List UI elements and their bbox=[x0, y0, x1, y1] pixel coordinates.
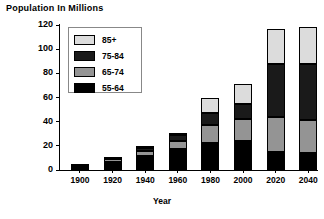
bar-segment bbox=[234, 119, 252, 141]
y-tick-mark bbox=[56, 49, 60, 50]
bar-segment bbox=[234, 141, 252, 170]
bar-stack bbox=[267, 29, 285, 170]
legend-label: 55-64 bbox=[102, 83, 124, 93]
chart-legend: 85+75-8465-7455-64 bbox=[68, 27, 142, 93]
y-axis-title: Population In Millions bbox=[6, 3, 103, 13]
bar-segment bbox=[104, 162, 122, 170]
y-tick-label: 40 bbox=[43, 116, 53, 126]
x-tick-mark bbox=[243, 170, 244, 173]
bar-segment bbox=[299, 120, 317, 153]
x-tick-label: 1920 bbox=[103, 175, 122, 185]
bar-stack bbox=[136, 146, 154, 170]
bar-segment bbox=[234, 104, 252, 120]
legend-swatch bbox=[74, 67, 95, 77]
x-tick-mark bbox=[210, 170, 211, 173]
legend-item: 75-84 bbox=[74, 48, 141, 63]
x-tick-label: 1980 bbox=[201, 175, 220, 185]
bar-segment bbox=[234, 84, 252, 103]
y-tick-label: 100 bbox=[38, 43, 53, 53]
bar-segment bbox=[201, 98, 219, 114]
x-tick-mark bbox=[145, 170, 146, 173]
x-tick-mark bbox=[79, 170, 80, 173]
y-tick-label: 60 bbox=[43, 92, 53, 102]
legend-item: 65-74 bbox=[74, 64, 141, 79]
bar-segment bbox=[267, 29, 285, 64]
y-tick-mark bbox=[56, 170, 60, 171]
x-tick-label: 1960 bbox=[168, 175, 187, 185]
bar-segment bbox=[201, 143, 219, 170]
bar-stack bbox=[104, 157, 122, 170]
x-tick-label: 1940 bbox=[136, 175, 155, 185]
bar-stack bbox=[234, 84, 252, 170]
y-tick-mark bbox=[56, 25, 60, 26]
x-tick-mark bbox=[308, 170, 309, 173]
legend-label: 65-74 bbox=[102, 67, 124, 77]
legend-swatch bbox=[74, 83, 95, 93]
x-tick-label: 2020 bbox=[266, 175, 285, 185]
x-tick-mark bbox=[112, 170, 113, 173]
bar-segment bbox=[201, 125, 219, 143]
x-tick-label: 2000 bbox=[234, 175, 253, 185]
bar-segment bbox=[169, 149, 187, 170]
y-tick-label: 20 bbox=[43, 140, 53, 150]
x-tick-label: 1900 bbox=[71, 175, 90, 185]
x-tick-mark bbox=[275, 170, 276, 173]
legend-item: 55-64 bbox=[74, 80, 141, 95]
legend-label: 75-84 bbox=[102, 51, 124, 61]
bar-segment bbox=[169, 141, 187, 149]
legend-swatch bbox=[74, 51, 95, 61]
bar-stack bbox=[201, 98, 219, 170]
y-tick-mark bbox=[56, 97, 60, 98]
bar-segment bbox=[136, 156, 154, 171]
y-tick-mark bbox=[56, 73, 60, 74]
x-axis-title: Year bbox=[0, 196, 324, 206]
x-axis-line bbox=[59, 170, 318, 171]
bar-segment bbox=[267, 64, 285, 117]
x-tick-label: 2040 bbox=[299, 175, 318, 185]
legend-item: 85+ bbox=[74, 32, 141, 47]
y-tick-label: 80 bbox=[43, 67, 53, 77]
bar-segment bbox=[299, 27, 317, 63]
y-tick-mark bbox=[56, 121, 60, 122]
y-tick-label: 0 bbox=[48, 164, 53, 174]
bar-segment bbox=[267, 117, 285, 152]
bar-segment bbox=[267, 152, 285, 170]
bar-stack bbox=[169, 133, 187, 170]
y-tick-label: 120 bbox=[38, 19, 53, 29]
legend-swatch bbox=[74, 35, 95, 45]
bar-segment bbox=[299, 64, 317, 121]
population-stacked-bar-chart: Population In Millions 02040608010012019… bbox=[0, 0, 324, 219]
legend-label: 85+ bbox=[102, 35, 116, 45]
x-tick-mark bbox=[177, 170, 178, 173]
bar-segment bbox=[201, 113, 219, 125]
bar-segment bbox=[299, 153, 317, 170]
bar-stack bbox=[299, 27, 317, 170]
y-tick-mark bbox=[56, 145, 60, 146]
